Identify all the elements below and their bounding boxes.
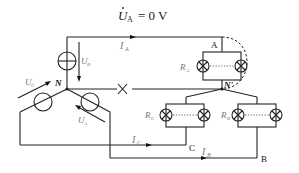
svg-text:C: C: [151, 116, 155, 121]
label-current-a: I: [119, 40, 124, 51]
load-c: [160, 97, 210, 127]
wire-phase-c: [20, 127, 186, 147]
svg-text:B: B: [227, 116, 230, 121]
label-neutral-load: N': [223, 80, 233, 90]
source-c: [34, 93, 52, 111]
label-node-c: C: [189, 143, 195, 153]
source-a: [81, 93, 99, 111]
svg-text:B: B: [87, 62, 90, 67]
circuit-diagram: U A = 0 V I A U B N U C: [0, 0, 299, 173]
title-subscript: A: [127, 15, 133, 24]
label-node-b: B: [261, 154, 267, 164]
label-resistor-c: R: [144, 110, 151, 120]
phasor-dot: [122, 7, 124, 9]
arrow-current-c: [146, 143, 152, 147]
svg-text:B: B: [207, 152, 211, 158]
title-equation: U A = 0 V: [118, 7, 168, 24]
title-rhs: = 0 V: [138, 8, 168, 23]
label-current-b: I: [201, 146, 206, 157]
label-node-a: A: [211, 40, 218, 50]
label-resistor-b: R: [220, 110, 227, 120]
label-resistor-a: R: [179, 62, 186, 72]
label-current-c: I: [131, 134, 136, 145]
load-b: [232, 97, 282, 127]
svg-text:C: C: [31, 83, 35, 88]
svg-text:A: A: [124, 46, 129, 52]
label-neutral-source: N: [54, 78, 62, 88]
arrow-current-a: [130, 35, 136, 39]
arrow-voltage-c: [18, 81, 51, 98]
svg-text:A: A: [185, 68, 190, 73]
svg-text:A: A: [83, 121, 88, 126]
